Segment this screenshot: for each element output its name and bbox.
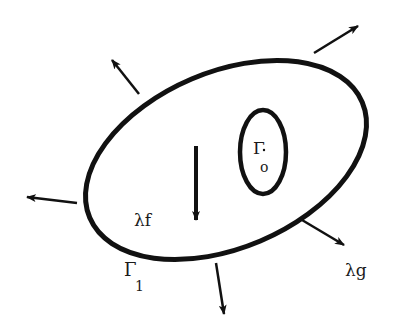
- outer-boundary-curve: [55, 21, 396, 299]
- inner-label-dot: [263, 149, 265, 151]
- traction-arrow: [302, 220, 344, 245]
- outer-boundary-label: Γ: [124, 259, 137, 280]
- outer-boundary-subscript: 1: [135, 278, 144, 294]
- boundary-value-diagram: λf λg Γ 1 Γ o: [0, 0, 397, 322]
- normal-arrow-top-right: [314, 26, 358, 53]
- inner-boundary-subscript: o: [260, 159, 268, 175]
- body-force-label: λf: [134, 210, 153, 230]
- traction-label: λg: [345, 260, 367, 280]
- inner-boundary-label: Γ: [253, 138, 265, 158]
- normal-arrow-left: [27, 197, 77, 203]
- normal-arrow-bottom: [216, 263, 224, 314]
- normal-arrow-top-left: [112, 60, 139, 94]
